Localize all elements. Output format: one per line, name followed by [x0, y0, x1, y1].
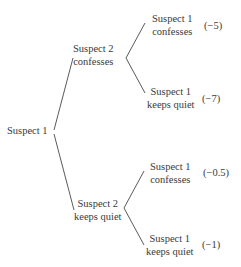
- leaf-line2: keeps quiet: [146, 245, 194, 258]
- node-suspect2-confesses: Suspect 2 confesses: [73, 42, 114, 68]
- leaf-suspect1-confesses-a: Suspect 1 confesses: [152, 12, 193, 38]
- edge-root-to-s2-confesses: [54, 58, 73, 130]
- node-suspect2-keeps-quiet: Suspect 2 keeps quiet: [74, 197, 122, 223]
- leaf-line1: Suspect 1: [146, 232, 194, 245]
- edge-s2c-to-leaf1: [126, 23, 145, 58]
- edge-s2q-to-leaf4: [124, 208, 144, 245]
- node-line2: keeps quiet: [74, 210, 122, 223]
- root-label: Suspect 1: [7, 125, 48, 136]
- leaf-suspect1-confesses-b: Suspect 1 confesses: [150, 160, 191, 186]
- node-line1: Suspect 2: [74, 197, 122, 210]
- edge-root-to-s2-quiet: [54, 134, 74, 210]
- leaf-line2: keeps quiet: [147, 98, 195, 111]
- payoff-4: (−1): [202, 238, 220, 251]
- leaf-line2: confesses: [152, 25, 193, 38]
- edge-s2c-to-leaf2: [126, 58, 145, 93]
- payoff-3: (−0.5): [203, 166, 229, 179]
- leaf-line1: Suspect 1: [150, 160, 191, 173]
- node-line1: Suspect 2: [73, 42, 114, 55]
- leaf-line1: Suspect 1: [147, 85, 195, 98]
- leaf-line1: Suspect 1: [152, 12, 193, 25]
- leaf-line2: confesses: [150, 173, 191, 186]
- payoff-2: (−7): [202, 92, 220, 105]
- leaf-suspect1-keeps-quiet-b: Suspect 1 keeps quiet: [146, 232, 194, 258]
- node-line2: confesses: [73, 55, 114, 68]
- root-node: Suspect 1: [7, 124, 48, 137]
- payoff-1: (−5): [204, 19, 222, 32]
- edge-s2q-to-leaf3: [124, 171, 144, 208]
- leaf-suspect1-keeps-quiet-a: Suspect 1 keeps quiet: [147, 85, 195, 111]
